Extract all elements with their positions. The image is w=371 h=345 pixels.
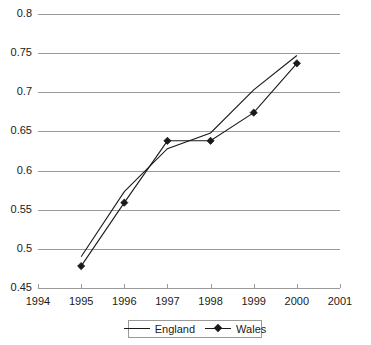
y-axis-tick-label: 0.7	[0, 86, 32, 97]
series-line-england	[81, 55, 297, 256]
x-axis-tick-label: 1995	[59, 296, 103, 307]
y-axis-tick-label: 0.55	[0, 204, 32, 215]
chart-legend: EnglandWales	[128, 320, 262, 338]
data-point-marker	[164, 137, 171, 144]
legend-line-icon	[124, 328, 150, 329]
data-point-marker	[121, 199, 128, 206]
series-line-wales	[81, 63, 297, 266]
y-axis-tick-label: 0.5	[0, 243, 32, 254]
legend-entry-england: England	[124, 324, 195, 335]
legend-swatch-england	[124, 324, 150, 334]
data-point-marker	[207, 137, 214, 144]
legend-label: Wales	[236, 324, 266, 335]
series-markers	[78, 60, 301, 270]
y-axis-tick-label: 0.6	[0, 165, 32, 176]
x-axis-tick-label: 1998	[189, 296, 233, 307]
x-axis-tick-label: 1994	[16, 296, 60, 307]
gridlines	[38, 15, 340, 289]
legend-label: England	[155, 324, 195, 335]
legend-entry-wales: Wales	[205, 324, 266, 335]
y-axis-tick-label: 0.8	[0, 8, 32, 19]
x-axis-tick-label: 2001	[318, 296, 362, 307]
line-chart: 0.80.750.70.650.60.550.50.45 19941995199…	[0, 0, 371, 345]
data-point-marker	[78, 262, 85, 269]
x-axis-tick-label: 1999	[232, 296, 276, 307]
y-axis-tick-label: 0.45	[0, 282, 32, 293]
x-axis-tick-label: 2000	[275, 296, 319, 307]
legend-diamond-icon	[214, 324, 222, 332]
x-axis-tick-label: 1997	[145, 296, 189, 307]
y-axis-tick-label: 0.65	[0, 125, 32, 136]
series-lines	[81, 55, 297, 266]
x-axis-tick-label: 1996	[102, 296, 146, 307]
y-axis-tick-label: 0.75	[0, 47, 32, 58]
x-axis-ticks	[39, 284, 341, 288]
plot-area	[0, 0, 371, 345]
legend-swatch-wales	[205, 324, 231, 334]
